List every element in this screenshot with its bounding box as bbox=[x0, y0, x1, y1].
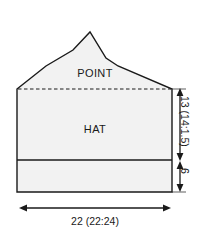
width-dimension-label: 22 (22:24) bbox=[0, 216, 190, 227]
hat-section-label: HAT bbox=[0, 124, 190, 135]
width-arrowhead-right bbox=[163, 205, 171, 212]
brim-height-dimension-label: 6 bbox=[180, 168, 191, 174]
brim-height-dimension bbox=[172, 161, 186, 192]
width-dimension bbox=[19, 205, 171, 212]
crown-height-arrowhead-bottom bbox=[177, 153, 184, 161]
hat-schematic-diagram: POINT HAT 22 (22:24) 13 (14:1.5) 6 bbox=[0, 0, 217, 247]
point-section-label: POINT bbox=[0, 68, 190, 79]
width-arrowhead-left bbox=[19, 205, 27, 212]
crown-height-dimension-label: 13 (14:1.5) bbox=[180, 96, 191, 147]
brim-band-shape bbox=[17, 160, 172, 192]
brim-height-arrowhead-bottom bbox=[177, 184, 184, 192]
